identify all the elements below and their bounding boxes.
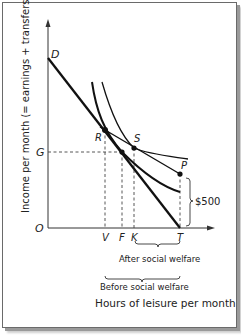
label-O: O xyxy=(35,222,44,235)
label-S: S xyxy=(134,133,141,144)
y-axis-label: Income per month (= earnings + transfers… xyxy=(20,0,31,213)
label-K: K xyxy=(131,232,139,243)
label-T: T xyxy=(177,232,184,243)
label-F: F xyxy=(119,232,125,243)
after-welfare-label: After social welfare xyxy=(119,254,200,264)
axes xyxy=(46,19,216,231)
transfer-brace xyxy=(186,178,193,226)
label-R: R xyxy=(95,132,102,143)
after-welfare-brace xyxy=(135,241,180,247)
point-F xyxy=(119,149,124,154)
x-axis-arrow-icon xyxy=(207,226,215,231)
transfer-amount-label: $500 xyxy=(195,196,220,207)
label-G: G xyxy=(36,146,45,159)
labor-leisure-diagram: D G O R S P V F K T $500 After social we… xyxy=(0,0,241,335)
label-P: P xyxy=(181,160,188,171)
indifference-curve-upper xyxy=(102,82,188,159)
before-welfare-label: Before social welfare xyxy=(100,282,189,292)
point-R xyxy=(102,127,108,133)
label-V: V xyxy=(102,232,110,243)
y-axis-arrow-icon xyxy=(46,19,51,27)
point-P xyxy=(177,171,182,176)
point-S xyxy=(131,145,136,150)
x-axis-label: Hours of leisure per month xyxy=(95,297,236,309)
label-D: D xyxy=(51,48,59,61)
